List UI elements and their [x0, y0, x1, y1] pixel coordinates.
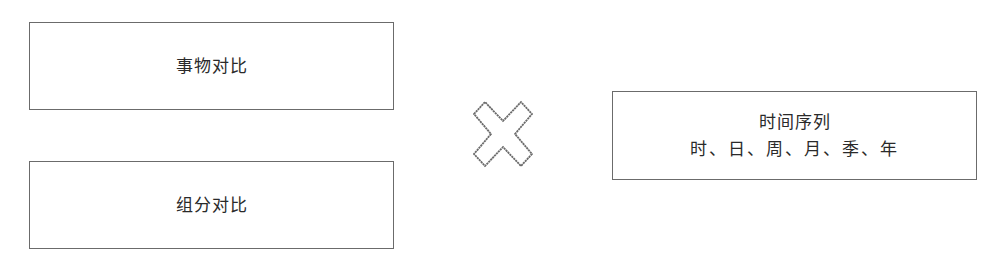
- cross-icon: [470, 98, 536, 170]
- comparison-box-things: 事物对比: [29, 22, 394, 110]
- comparison-box-components: 组分对比: [29, 161, 394, 249]
- time-series-title: 时间序列: [759, 109, 831, 136]
- box-label: 事物对比: [176, 53, 248, 80]
- time-series-units: 时、日、周、月、季、年: [690, 136, 899, 163]
- time-series-box: 时间序列 时、日、周、月、季、年: [612, 91, 977, 180]
- box-label: 组分对比: [176, 192, 248, 219]
